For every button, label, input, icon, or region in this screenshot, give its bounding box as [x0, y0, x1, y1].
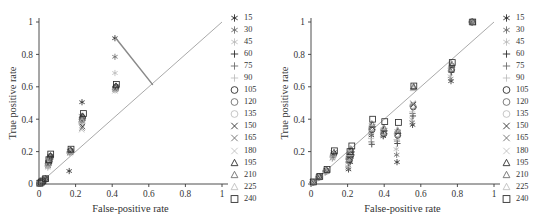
legend-item-165[interactable]: 165 — [500, 132, 544, 144]
legend-item-210[interactable]: 210 — [228, 169, 276, 181]
plus-marker-icon — [500, 72, 513, 84]
series-225 — [37, 86, 118, 186]
legend-item-120[interactable]: 120 — [228, 96, 276, 108]
data-point — [394, 146, 399, 152]
plus-marker-icon — [228, 72, 241, 84]
legend-item-180[interactable]: 180 — [228, 145, 276, 157]
legend-item-180[interactable]: 180 — [500, 145, 544, 157]
legend-label: 225 — [513, 181, 528, 193]
y-tick-label: 0 — [28, 179, 33, 189]
legend-item-105[interactable]: 105 — [228, 84, 276, 96]
legend-label: 165 — [241, 132, 256, 144]
data-point — [112, 70, 117, 76]
asterisk-glyph — [503, 38, 509, 45]
legend-item-195[interactable]: 195 — [500, 157, 544, 169]
series-240 — [310, 19, 475, 185]
cross-marker-icon — [228, 120, 241, 132]
legend-label: 120 — [513, 96, 528, 108]
legend-item-120[interactable]: 120 — [500, 96, 544, 108]
series-165 — [37, 87, 118, 187]
legend-item-105[interactable]: 105 — [500, 84, 544, 96]
legend-item-195[interactable]: 195 — [228, 157, 276, 169]
asterisk-marker-icon — [228, 12, 241, 24]
circle-marker-icon — [500, 84, 513, 96]
legend-item-240[interactable]: 240 — [228, 193, 276, 205]
series-195 — [37, 83, 119, 186]
legend-item-45[interactable]: 45 — [228, 36, 276, 48]
asterisk-glyph — [503, 26, 509, 33]
cross-glyph — [231, 123, 237, 129]
legend-label: 135 — [241, 108, 256, 120]
cross-marker-icon — [228, 132, 241, 144]
legend-item-135[interactable]: 135 — [228, 108, 276, 120]
cross-glyph — [503, 135, 509, 141]
legend-item-135[interactable]: 135 — [500, 108, 544, 120]
x-tick-label: 1 — [492, 189, 497, 199]
y-tick-label: 0 — [300, 179, 305, 189]
cross-marker-icon — [228, 145, 241, 157]
data-point — [112, 54, 117, 60]
legend-item-150[interactable]: 150 — [228, 120, 276, 132]
triangle-marker-icon — [500, 157, 513, 169]
legend-item-75[interactable]: 75 — [500, 60, 544, 72]
x-tick-label: 1 — [220, 189, 225, 199]
legend-item-75[interactable]: 75 — [228, 60, 276, 72]
legend-item-60[interactable]: 60 — [228, 48, 276, 60]
y-tick-label: 0.6 — [293, 82, 305, 92]
legend-item-225[interactable]: 225 — [228, 181, 276, 193]
legend-label: 45 — [241, 36, 252, 48]
triangle-marker-icon — [228, 157, 241, 169]
legend-label: 210 — [241, 169, 256, 181]
data-points — [309, 19, 475, 186]
triangle-glyph — [503, 183, 510, 189]
x-tick-label: 0.6 — [143, 189, 155, 199]
legend-item-30[interactable]: 30 — [228, 24, 276, 36]
legend-item-60[interactable]: 60 — [500, 48, 544, 60]
legend-item-15[interactable]: 15 — [500, 12, 544, 24]
x-tick-label: 0.6 — [415, 189, 427, 199]
legend-label: 195 — [241, 157, 256, 169]
legend-label: 240 — [241, 193, 256, 205]
series-105 — [37, 84, 119, 186]
legend-item-240[interactable]: 240 — [500, 193, 544, 205]
circle-marker-icon — [228, 96, 241, 108]
legend-label: 30 — [513, 24, 524, 36]
legend-label: 60 — [513, 48, 524, 60]
legend-item-150[interactable]: 150 — [500, 120, 544, 132]
series-150 — [37, 85, 118, 186]
y-axis-title: True positive rate — [7, 66, 18, 139]
legend-item-15[interactable]: 15 — [228, 12, 276, 24]
data-point — [448, 73, 453, 79]
legend-item-90[interactable]: 90 — [228, 72, 276, 84]
legend-right: 1530456075901051201351501651801952102252… — [500, 12, 544, 212]
legend-item-225[interactable]: 225 — [500, 181, 544, 193]
data-point — [394, 159, 399, 165]
roc-figure: 00.20.40.60.8100.20.40.60.81False-positi… — [0, 0, 544, 221]
triangle-marker-icon — [500, 169, 513, 181]
cross-marker-icon — [500, 132, 513, 144]
legend-item-45[interactable]: 45 — [500, 36, 544, 48]
legend-label: 60 — [241, 48, 252, 60]
legend-label: 120 — [241, 96, 256, 108]
legend-item-30[interactable]: 30 — [500, 24, 544, 36]
series-210 — [37, 85, 119, 186]
legend-item-210[interactable]: 210 — [500, 169, 544, 181]
series-120 — [37, 86, 119, 187]
x-tick-label: 0.4 — [378, 189, 390, 199]
data-points — [36, 35, 119, 187]
data-point — [67, 168, 72, 174]
x-axis-title: False-positive rate — [364, 203, 441, 214]
plus-glyph — [503, 50, 510, 57]
cross-marker-icon — [500, 145, 513, 157]
legend-item-165[interactable]: 165 — [228, 132, 276, 144]
legend-left: 1530456075901051201351501651801952102252… — [228, 12, 276, 212]
triangle-marker-icon — [500, 181, 513, 193]
asterisk-glyph — [503, 14, 509, 21]
asterisk-glyph — [231, 26, 237, 33]
y-tick-label: 0.2 — [21, 147, 33, 157]
series-240 — [37, 81, 119, 186]
square-glyph — [503, 195, 510, 202]
x-tick-label: 0.4 — [106, 189, 118, 199]
legend-label: 105 — [241, 84, 256, 96]
legend-item-90[interactable]: 90 — [500, 72, 544, 84]
